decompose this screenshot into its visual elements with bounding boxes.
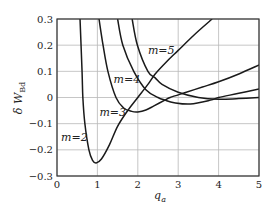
curve-m-5 <box>132 19 259 99</box>
y-tick-label: −0.3 <box>29 171 53 182</box>
x-tick-label: 0 <box>54 179 60 190</box>
curve-label-m-4: m=4 <box>114 73 141 86</box>
x-tick-label: 2 <box>135 179 141 190</box>
y-tick-label: 0.2 <box>37 40 53 51</box>
curve-label-m-2: m=2 <box>61 131 88 144</box>
y-axis-ticks: −0.3−0.2−0.100.10.20.3 <box>29 14 53 182</box>
curve-labels: m=2m=3m=4m=5 <box>61 44 175 143</box>
x-axis-label: qa <box>154 189 166 204</box>
y-tick-label: 0.3 <box>37 14 53 25</box>
y-axis-label: δ WBd <box>12 82 27 114</box>
x-tick-label: 1 <box>94 179 100 190</box>
chart: −0.3−0.2−0.100.10.20.3 012345 m=2m=3m=4m… <box>0 0 271 206</box>
y-tick-label: 0.1 <box>37 66 53 77</box>
y-tick-label: −0.1 <box>29 118 53 129</box>
curve-label-m-3: m=3 <box>99 106 126 119</box>
x-tick-label: 4 <box>215 179 221 190</box>
x-tick-label: 3 <box>175 179 181 190</box>
y-tick-label: −0.2 <box>29 144 53 155</box>
curve-label-m-5: m=5 <box>148 44 175 57</box>
curves <box>80 19 259 163</box>
y-tick-label: 0 <box>47 92 53 103</box>
x-tick-label: 5 <box>256 179 262 190</box>
